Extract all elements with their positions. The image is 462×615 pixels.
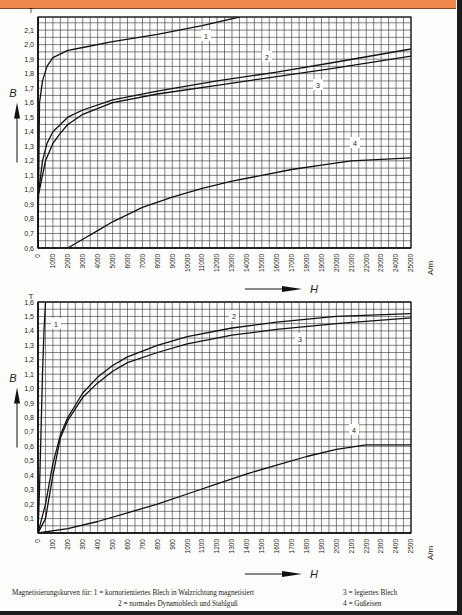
svg-text:0: 0	[34, 254, 41, 258]
svg-text:1: 1	[54, 321, 58, 328]
caption-item-2: 2 = normales Dynamoblech und Stahlguß	[118, 600, 238, 608]
chart-1: 0,60,70,80,91,01,11,21,31,41,51,61,71,81…	[9, 6, 435, 295]
svg-text:0,7: 0,7	[24, 428, 34, 435]
svg-text:1100: 1100	[198, 539, 205, 553]
svg-text:4: 4	[353, 140, 357, 147]
svg-text:A/m: A/m	[426, 261, 435, 276]
svg-text:6000: 6000	[124, 254, 131, 269]
svg-text:4: 4	[352, 427, 356, 434]
svg-text:1,6: 1,6	[24, 99, 34, 106]
svg-text:0,8: 0,8	[24, 414, 34, 421]
svg-text:2200: 2200	[363, 539, 370, 554]
svg-text:B: B	[9, 87, 16, 99]
svg-text:1600: 1600	[273, 539, 280, 554]
svg-text:1,8: 1,8	[24, 70, 34, 77]
svg-text:500: 500	[109, 539, 116, 550]
svg-text:1,3: 1,3	[24, 143, 34, 150]
svg-text:900: 900	[169, 539, 176, 550]
svg-text:1700: 1700	[288, 539, 295, 554]
svg-text:0,1: 0,1	[24, 515, 34, 522]
svg-text:1,5: 1,5	[24, 313, 34, 320]
svg-text:1,2: 1,2	[24, 157, 34, 164]
svg-text:16000: 16000	[273, 254, 280, 272]
svg-text:1,1: 1,1	[24, 172, 34, 179]
svg-text:15000: 15000	[258, 254, 265, 272]
svg-text:100: 100	[49, 539, 56, 550]
svg-text:H: H	[310, 283, 318, 295]
svg-text:19000: 19000	[318, 254, 325, 272]
magnetization-charts: 0,60,70,80,91,01,11,21,31,41,51,61,71,81…	[0, 0, 462, 615]
svg-text:1: 1	[204, 33, 208, 40]
svg-text:0,2: 0,2	[24, 501, 34, 508]
svg-text:0,9: 0,9	[24, 400, 34, 407]
svg-text:10000: 10000	[184, 254, 191, 272]
svg-text:8000: 8000	[154, 254, 161, 269]
svg-text:T: T	[29, 292, 34, 301]
svg-text:700: 700	[139, 539, 146, 550]
svg-text:20000: 20000	[333, 254, 340, 272]
chart-2: 0,10,20,30,40,50,60,70,80,91,01,11,21,31…	[9, 292, 435, 580]
svg-text:1000: 1000	[49, 254, 56, 269]
svg-text:2100: 2100	[348, 539, 355, 554]
svg-text:2000: 2000	[64, 254, 71, 269]
caption-item-3: 3 = legiertes Blech	[343, 589, 397, 597]
svg-text:800: 800	[154, 539, 161, 550]
svg-text:4000: 4000	[94, 254, 101, 269]
svg-text:0,6: 0,6	[24, 245, 34, 252]
svg-text:7000: 7000	[139, 254, 146, 269]
svg-text:3: 3	[316, 82, 320, 89]
svg-text:0,8: 0,8	[24, 215, 34, 222]
svg-text:0,6: 0,6	[24, 443, 34, 450]
svg-text:400: 400	[94, 539, 101, 550]
svg-text:22000: 22000	[363, 254, 370, 272]
svg-text:200: 200	[64, 539, 71, 550]
svg-text:18000: 18000	[303, 254, 310, 272]
svg-text:1,5: 1,5	[24, 114, 34, 121]
svg-text:600: 600	[124, 539, 131, 550]
svg-text:2500: 2500	[407, 539, 414, 554]
svg-text:0,7: 0,7	[24, 230, 34, 237]
svg-text:9000: 9000	[169, 254, 176, 269]
svg-text:0: 0	[34, 539, 41, 543]
svg-text:5000: 5000	[109, 254, 116, 269]
svg-text:13000: 13000	[228, 254, 235, 272]
svg-text:T: T	[29, 6, 34, 15]
svg-text:1,9: 1,9	[24, 56, 34, 63]
svg-text:1200: 1200	[213, 539, 220, 554]
svg-text:2: 2	[265, 54, 269, 61]
svg-text:0,5: 0,5	[24, 457, 34, 464]
svg-text:2,0: 2,0	[24, 41, 34, 48]
svg-text:1,3: 1,3	[24, 342, 34, 349]
svg-text:1400: 1400	[243, 539, 250, 554]
svg-text:17000: 17000	[288, 254, 295, 272]
svg-text:H: H	[310, 568, 318, 580]
svg-text:24000: 24000	[392, 254, 399, 272]
svg-text:1,7: 1,7	[24, 85, 34, 92]
svg-text:0,3: 0,3	[24, 486, 34, 493]
svg-text:2000: 2000	[333, 539, 340, 554]
svg-text:1000: 1000	[184, 539, 191, 554]
svg-text:14000: 14000	[243, 254, 250, 272]
svg-text:2400: 2400	[392, 539, 399, 554]
svg-text:A/m: A/m	[426, 546, 435, 561]
svg-text:0,9: 0,9	[24, 201, 34, 208]
svg-text:300: 300	[79, 539, 86, 550]
caption-item-4: 4 = Gußeisen	[343, 600, 381, 608]
svg-text:1,4: 1,4	[24, 327, 34, 334]
svg-text:3000: 3000	[79, 254, 86, 269]
svg-text:1300: 1300	[228, 539, 235, 554]
caption-intro: Magnetisierungskurven für: 1 = kornorien…	[12, 589, 254, 597]
svg-text:12000: 12000	[213, 254, 220, 272]
svg-text:1800: 1800	[303, 539, 310, 554]
svg-text:1,2: 1,2	[24, 356, 34, 363]
svg-text:1,1: 1,1	[24, 371, 34, 378]
svg-text:1,0: 1,0	[24, 186, 34, 193]
svg-text:2: 2	[232, 313, 236, 320]
svg-text:2300: 2300	[377, 539, 384, 554]
svg-text:B: B	[9, 372, 16, 384]
svg-text:1500: 1500	[258, 539, 265, 554]
svg-text:2,1: 2,1	[24, 27, 34, 34]
svg-text:0,4: 0,4	[24, 472, 34, 479]
svg-text:1,4: 1,4	[24, 128, 34, 135]
svg-text:1900: 1900	[318, 539, 325, 554]
